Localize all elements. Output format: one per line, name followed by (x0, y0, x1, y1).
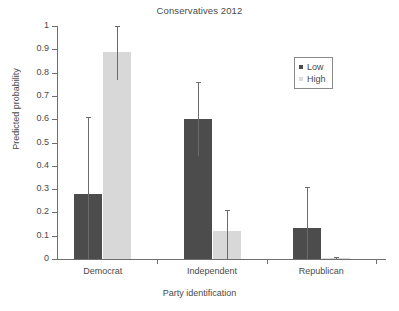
x-tick-label-independent: Independent (187, 266, 237, 276)
y-tick-label: 0.6 (0, 113, 49, 123)
x-axis-title: Party identification (0, 288, 399, 298)
y-tick-label: 0.9 (0, 43, 49, 53)
chart-title: Conservatives 2012 (0, 5, 399, 16)
plot-area (57, 26, 385, 259)
legend-item-high: High (299, 73, 326, 85)
x-tick (267, 259, 268, 264)
error-bar-cap (225, 210, 230, 211)
x-axis-line (57, 259, 386, 260)
x-tick-label-democrat: Democrat (83, 266, 122, 276)
error-bar-cap (196, 82, 201, 83)
bar-democrat-high (103, 52, 131, 259)
error-bar-cap (115, 26, 120, 27)
error-bar-independent-high (227, 210, 228, 259)
error-bar-cap (86, 117, 91, 118)
chart-container: Conservatives 2012 00.10.20.30.40.50.60.… (0, 0, 399, 311)
y-tick-label: 0.7 (0, 90, 49, 100)
error-bar-independent-low (198, 82, 199, 157)
error-bar-republican-low (307, 187, 308, 259)
legend-swatch-icon (299, 65, 303, 69)
y-tick-label: 0 (0, 253, 49, 263)
x-tick (376, 259, 377, 264)
y-tick-label: 0.5 (0, 137, 49, 147)
error-bar-cap (305, 187, 310, 188)
y-tick-label: 0.3 (0, 183, 49, 193)
y-tick (52, 259, 57, 260)
y-tick-label: 0.4 (0, 160, 49, 170)
y-tick-label: 1 (0, 20, 49, 30)
legend-item-low: Low (299, 61, 326, 73)
y-tick-label: 0.2 (0, 206, 49, 216)
error-bar-cap (334, 257, 339, 258)
y-tick-label: 0.1 (0, 230, 49, 240)
x-tick-label-republican: Republican (299, 266, 344, 276)
x-tick (157, 259, 158, 264)
error-bar-democrat-low (88, 117, 89, 259)
legend-swatch-icon (299, 77, 303, 81)
legend-label: Low (307, 61, 324, 73)
error-bar-democrat-high (117, 26, 118, 80)
y-tick-label: 0.8 (0, 67, 49, 77)
legend: LowHigh (294, 57, 333, 89)
y-axis-title: Predicted probability (11, 9, 21, 209)
legend-label: High (307, 73, 326, 85)
